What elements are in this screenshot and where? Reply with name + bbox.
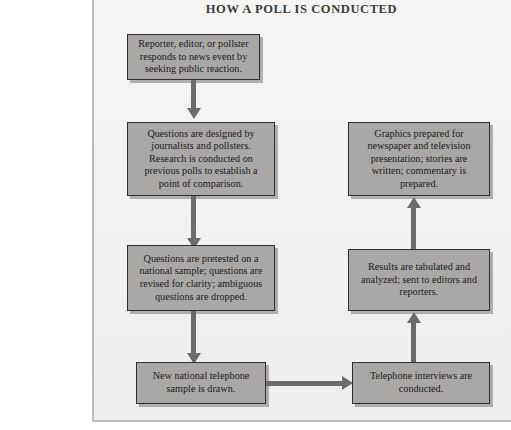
arrow-down-icon (187, 108, 201, 119)
connector-line (191, 196, 196, 240)
connector-line (191, 311, 196, 355)
flow-node-step-6-text: Results are tabulated and analyzed; sent… (354, 261, 484, 299)
connector-line (191, 80, 196, 110)
flow-node-step-5-text: Telephone interviews are conducted. (358, 370, 484, 395)
flow-node-step-1: Reporter, editor, or pollster responds t… (127, 34, 260, 80)
connector-line (266, 381, 344, 386)
flow-node-step-4-text: New national telephone sample is drawn. (142, 370, 260, 395)
connector-line (411, 207, 416, 249)
flow-node-step-2-text: Questions are designed by journalists an… (133, 128, 269, 191)
flow-node-step-3-text: Questions are pretested on a national sa… (133, 253, 269, 303)
figure-title: HOW A POLL IS CONDUCTED (92, 2, 511, 17)
figure-root: HOW A POLL IS CONDUCTED Reporter, editor… (0, 0, 511, 430)
flow-node-step-1-text: Reporter, editor, or pollster responds t… (133, 38, 254, 76)
flow-node-step-6: Results are tabulated and analyzed; sent… (348, 249, 490, 311)
arrow-up-icon (407, 197, 421, 208)
arrow-up-icon (407, 312, 421, 323)
flow-node-step-4: New national telephone sample is drawn. (136, 362, 266, 404)
connector-line (411, 322, 416, 362)
flow-node-step-7: Graphics prepared for newspaper and tele… (348, 122, 490, 196)
flow-node-step-3: Questions are pretested on a national sa… (127, 245, 275, 311)
flow-node-step-5: Telephone interviews are conducted. (352, 362, 490, 404)
flow-node-step-7-text: Graphics prepared for newspaper and tele… (354, 128, 484, 191)
flow-node-step-2: Questions are designed by journalists an… (127, 122, 275, 196)
